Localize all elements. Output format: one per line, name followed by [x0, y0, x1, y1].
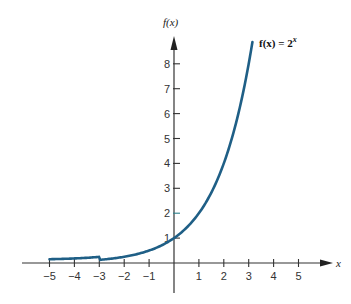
function-curve: [50, 42, 253, 260]
x-tick-label: −3: [93, 270, 106, 282]
x-axis-arrow-icon: [320, 260, 333, 267]
x-tick-label: −2: [118, 270, 131, 282]
y-axis-arrow-icon: [171, 36, 178, 50]
function-label-base: f(x) = 2: [259, 37, 293, 50]
exponential-function-chart: x −5−4−3−2−112345 f(x) 12345678 f(x) = 2…: [0, 0, 351, 304]
y-axis-label: f(x): [163, 16, 179, 29]
x-tick-label: 4: [271, 270, 277, 282]
y-axis: f(x) 12345678: [163, 16, 180, 293]
x-axis-label: x: [335, 257, 341, 269]
x-axis: x −5−4−3−2−112345: [22, 257, 341, 282]
x-tick-label: −5: [43, 270, 56, 282]
y-tick-label: 4: [164, 157, 170, 169]
x-tick-label: 1: [196, 270, 202, 282]
x-tick-label: 2: [221, 270, 227, 282]
x-tick-label: 5: [295, 270, 301, 282]
y-tick-label: 6: [164, 108, 170, 120]
y-axis-ticks: 12345678: [164, 58, 180, 244]
x-tick-label: −4: [68, 270, 81, 282]
function-label: f(x) = 2x: [259, 35, 297, 50]
y-tick-label: 5: [164, 133, 170, 145]
function-label-exponent: x: [292, 35, 297, 44]
y-tick-label: 7: [164, 83, 170, 95]
x-tick-label: −1: [143, 270, 156, 282]
y-tick-label: 2: [164, 207, 170, 219]
y-tick-label: 8: [164, 58, 170, 70]
x-tick-label: 3: [246, 270, 252, 282]
y-tick-label: 3: [164, 182, 170, 194]
